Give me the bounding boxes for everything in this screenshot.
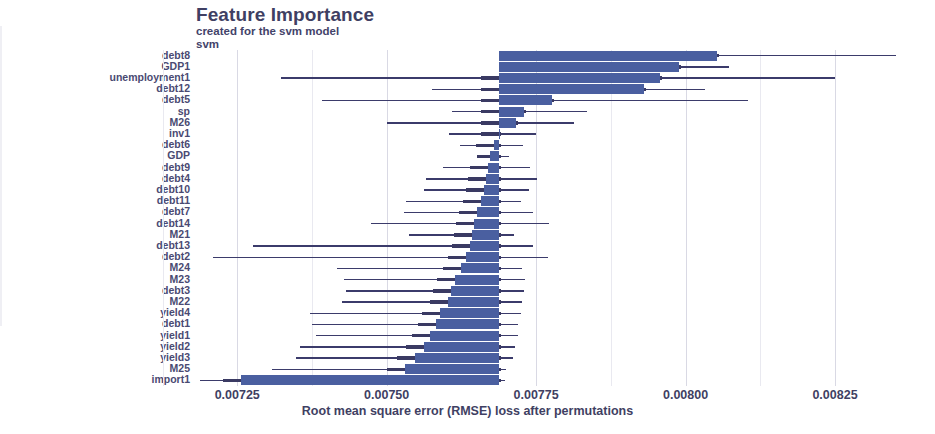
bar-M22 [448, 297, 499, 307]
bar-debt1 [436, 319, 499, 329]
bar-row [196, 117, 896, 128]
x-tick-label-0: 0.00725 [215, 388, 260, 402]
bar-yield2 [424, 342, 498, 352]
bar-debt12 [499, 84, 645, 94]
bar-unemployment1 [499, 73, 660, 83]
bar-row [196, 106, 896, 117]
bar-debt2 [466, 252, 499, 262]
bar-row [196, 263, 896, 274]
y-axis-label-import1: import1 [151, 374, 190, 385]
bar-row [196, 162, 896, 173]
x-tick-label-3: 0.00800 [663, 388, 708, 402]
bar-row [196, 140, 896, 151]
bar-debt14 [474, 219, 499, 229]
bar-row [196, 207, 896, 218]
bar-inv1 [499, 129, 501, 139]
bar-row [196, 84, 896, 95]
bar-debt9 [488, 163, 498, 173]
chart-subtitle-model: created for the svm model [196, 25, 374, 38]
x-tick-label-1: 0.00750 [364, 388, 409, 402]
bar-row [196, 95, 896, 106]
bar-row [196, 352, 896, 363]
bar-row [196, 128, 896, 139]
bar-row [196, 285, 896, 296]
bar-yield4 [440, 308, 498, 318]
bar-row [196, 330, 896, 341]
plot-area [196, 50, 896, 386]
x-tick-label-4: 0.00825 [812, 388, 857, 402]
y-axis-labels: debt8GDP1unemployment1debt12debt5spM26in… [0, 50, 190, 386]
bar-GDP [490, 151, 499, 161]
bar-row [196, 61, 896, 72]
bar-sp [499, 107, 524, 117]
bar-M25 [405, 364, 499, 374]
bar-row [196, 341, 896, 352]
bar-M26 [499, 118, 517, 128]
bar-row [196, 72, 896, 83]
chart-subtitle-name: svm [196, 38, 374, 51]
bar-debt8 [499, 51, 717, 61]
bar-row [196, 229, 896, 240]
chart-header: Feature Importance created for the svm m… [196, 4, 374, 50]
bar-M24 [461, 263, 499, 273]
y-axis-label-debt7: debt7 [162, 206, 190, 217]
bar-debt5 [499, 95, 553, 105]
bar-row [196, 240, 896, 251]
bar-row [196, 308, 896, 319]
bar-row [196, 218, 896, 229]
y-axis-label-M24: M24 [170, 262, 190, 273]
bar-yield3 [415, 353, 498, 363]
y-axis-label-debt1: debt1 [162, 318, 190, 329]
bar-row [196, 319, 896, 330]
page-title: Feature Importance [196, 4, 374, 25]
bar-debt11 [481, 196, 499, 206]
bar-M23 [455, 275, 498, 285]
bar-debt4 [486, 174, 499, 184]
bar-GDP1 [499, 62, 679, 72]
y-axis-label-GDP: GDP [167, 150, 190, 161]
bar-row [196, 274, 896, 285]
bar-row [196, 50, 896, 61]
x-axis-title: Root mean square error (RMSE) loss after… [0, 404, 935, 418]
bar-import1 [241, 375, 498, 385]
bar-debt7 [477, 207, 499, 217]
bar-debt13 [470, 241, 499, 251]
gridline-minor-0 [163, 50, 164, 386]
bar-debt10 [484, 185, 499, 195]
x-axis-ticks: 0.007250.007500.007750.008000.00825 [196, 388, 896, 404]
bar-row [196, 252, 896, 263]
bar-M21 [472, 230, 499, 240]
bar-row [196, 196, 896, 207]
bar-row [196, 173, 896, 184]
bar-row [196, 184, 896, 195]
bar-yield1 [430, 331, 498, 341]
y-axis-label-debt5: debt5 [162, 94, 190, 105]
bar-debt6 [494, 140, 499, 150]
bar-row [196, 375, 896, 386]
x-tick-label-2: 0.00775 [514, 388, 559, 402]
bar-debt3 [451, 286, 499, 296]
feature-importance-chart: Feature Importance created for the svm m… [0, 0, 935, 434]
bar-row [196, 151, 896, 162]
bar-row [196, 296, 896, 307]
bar-row [196, 364, 896, 375]
